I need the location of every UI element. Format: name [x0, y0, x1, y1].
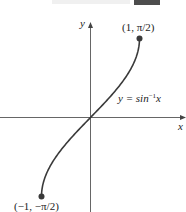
top-point-label: (1, π/2): [122, 22, 154, 33]
curve-eq-var: x: [156, 92, 161, 104]
endpoint-dot-top: [137, 35, 143, 41]
endpoint-dot-bottom: [39, 194, 45, 200]
x-axis-label: x: [178, 121, 183, 132]
y-axis-label: y: [80, 18, 85, 29]
curve-eq-sup: −1: [149, 92, 156, 100]
y-axis-arrow-icon: [88, 22, 93, 28]
bottom-point-label: (−1, −π/2): [14, 201, 59, 212]
curve-equation-label: y = sin−1x: [118, 93, 161, 104]
curve-eq-prefix: y = sin: [118, 92, 149, 104]
arcsin-plot: [0, 0, 186, 212]
